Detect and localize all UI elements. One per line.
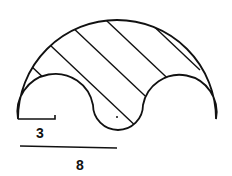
geometry-figure: 3 8	[0, 0, 232, 176]
shape-outline	[17, 20, 216, 130]
center-point	[116, 116, 118, 118]
dimension-line-large	[20, 146, 117, 148]
label-large-dimension: 8	[76, 157, 84, 173]
dimension-line-small	[18, 115, 55, 119]
label-small-dimension: 3	[36, 125, 44, 141]
hatching	[0, 0, 232, 176]
